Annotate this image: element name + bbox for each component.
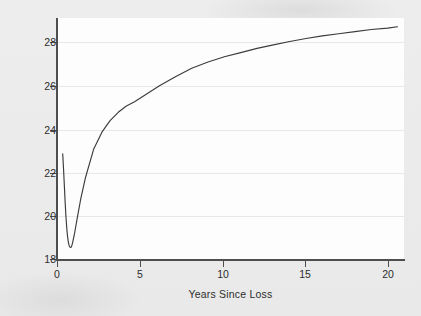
y-tick-label: 18 — [34, 254, 56, 265]
y-tick-label-wrap: 20 — [0, 211, 56, 222]
x-tick-label: 20 — [373, 268, 403, 280]
y-tick-label-wrap: 18 — [0, 254, 56, 265]
plot-area — [57, 18, 404, 260]
y-tick-label: 20 — [34, 211, 56, 222]
x-tick-label: 10 — [208, 268, 238, 280]
x-tick-label: 0 — [42, 268, 72, 280]
x-tick-mark — [57, 261, 58, 267]
x-axis-title: Years Since Loss — [57, 288, 404, 300]
y-tick-label: 22 — [34, 168, 56, 179]
x-tick-mark — [140, 261, 141, 267]
y-tick-label-wrap: 24 — [0, 125, 56, 136]
y-tick-label-wrap: 28 — [0, 37, 56, 48]
data-line-chart — [57, 18, 404, 260]
y-tick-label-wrap: 22 — [0, 168, 56, 179]
x-tick-label: 15 — [290, 268, 320, 280]
y-axis-line — [56, 18, 58, 261]
y-tick-label: 28 — [34, 37, 56, 48]
y-tick-label: 26 — [34, 81, 56, 92]
figure-background: 28 26 24 22 20 18 0 5 10 15 20 Years Sin… — [0, 0, 421, 316]
y-tick-label-wrap: 26 — [0, 81, 56, 92]
y-tick-label: 24 — [34, 125, 56, 136]
x-tick-mark — [223, 261, 224, 267]
x-tick-mark — [388, 261, 389, 267]
personal-growth-curve — [63, 27, 398, 248]
x-tick-label: 5 — [125, 268, 155, 280]
x-tick-mark — [305, 261, 306, 267]
x-axis-line — [56, 259, 405, 261]
